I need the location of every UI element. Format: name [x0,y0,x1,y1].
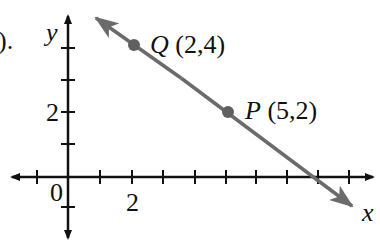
fragment-text: ). [0,28,13,54]
y-tick-label-2: 2 [46,100,59,126]
point-q-coords: (2,4) [175,30,225,59]
point-q-dot [128,39,140,51]
x-axis-label: x [362,200,374,226]
x-tick-label-2: 2 [126,190,139,216]
y-axis [61,16,75,238]
point-p-name: P [245,96,261,125]
origin-label: 0 [50,180,63,206]
point-p-coords: (5,2) [267,96,317,125]
point-q-label: Q (2,4) [150,32,225,58]
point-q-name: Q [150,30,169,59]
point-p-dot [222,106,234,118]
y-axis-label: y [46,20,58,46]
point-p-label: P (5,2) [245,98,317,124]
